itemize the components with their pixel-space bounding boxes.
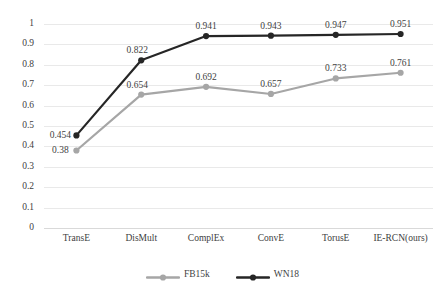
data-point-marker	[333, 32, 339, 38]
line-chart: 00.10.20.30.40.50.60.70.80.91 0.380.6540…	[0, 0, 445, 289]
cropped-title-remnant	[0, 0, 445, 6]
data-point-label: 0.733	[325, 63, 346, 73]
x-axis-tick-label: IE-RCN(ours)	[373, 232, 427, 244]
data-point-label: 0.654	[127, 80, 148, 90]
x-axis: TransEDisMultComplExConvETorusEIE-RCN(ou…	[44, 232, 433, 248]
data-point-label: 0.941	[195, 21, 216, 31]
data-point-marker	[397, 31, 403, 37]
x-axis-tick-label: DisMult	[125, 232, 157, 244]
y-axis-tick-label: 1	[29, 19, 34, 29]
y-axis-tick-label: 0.2	[22, 182, 34, 192]
data-point-label: 0.761	[390, 58, 411, 68]
data-point-marker	[138, 57, 144, 63]
y-axis-tick-label: 0.3	[22, 162, 34, 172]
x-axis-tick-label: TransE	[63, 232, 90, 244]
data-point-marker	[73, 147, 79, 153]
data-point-marker	[203, 84, 209, 90]
x-axis-tick-label: ConvE	[258, 232, 284, 244]
data-point-marker	[73, 132, 79, 138]
y-axis-tick-label: 0.7	[22, 80, 34, 90]
series-layer	[44, 24, 433, 228]
y-axis-tick-label: 0.9	[22, 39, 34, 49]
data-point-label: 0.692	[195, 72, 216, 82]
series-line-wn18	[76, 34, 400, 135]
data-point-marker	[333, 75, 339, 81]
data-point-marker	[268, 91, 274, 97]
data-point-marker	[268, 33, 274, 39]
y-axis-tick-label: 0.5	[22, 121, 34, 131]
data-point-label: 0.951	[390, 19, 411, 29]
x-axis-tick-label: TorusE	[322, 232, 349, 244]
data-point-label: 0.657	[260, 79, 281, 89]
y-axis-tick-label: 0.1	[22, 203, 34, 213]
y-axis-tick-label: 0.6	[22, 101, 34, 111]
series-line-fb15k	[76, 73, 400, 151]
data-point-marker	[397, 70, 403, 76]
legend-item-wn18[interactable]: WN18	[236, 269, 299, 280]
plot-area: 0.380.6540.6920.6570.7330.7610.4540.8220…	[44, 24, 433, 228]
data-point-label: 0.454	[50, 130, 71, 140]
gridline	[44, 228, 433, 229]
y-axis-tick-label: 0	[29, 223, 34, 233]
legend-label: FB15k	[184, 269, 210, 280]
data-point-marker	[203, 33, 209, 39]
y-axis: 00.10.20.30.40.50.60.70.80.91	[0, 0, 40, 252]
y-axis-tick-label: 0.8	[22, 60, 34, 70]
legend-line-marker-icon	[146, 269, 180, 280]
data-point-label: 0.38	[52, 145, 69, 155]
legend-label: WN18	[274, 269, 299, 280]
data-point-marker	[138, 91, 144, 97]
data-point-label: 0.947	[325, 20, 346, 30]
x-axis-tick-label: ComplEx	[188, 232, 224, 244]
legend-line-marker-icon	[236, 269, 270, 280]
data-point-label: 0.822	[127, 45, 148, 55]
data-point-label: 0.943	[260, 21, 281, 31]
y-axis-tick-label: 0.4	[22, 141, 34, 151]
legend-item-fb15k[interactable]: FB15k	[146, 269, 210, 280]
chart-legend: FB15kWN18	[0, 264, 445, 284]
